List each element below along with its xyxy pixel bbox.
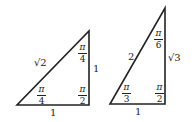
- pi-symbol: π: [80, 43, 86, 52]
- pi-symbol: π: [39, 85, 45, 94]
- t2-base-label: 1: [135, 107, 141, 117]
- denominator: 3: [124, 95, 130, 104]
- t1-angle-bottom-left: π 4: [37, 85, 46, 106]
- t2-angle-top: π 6: [154, 29, 163, 50]
- t1-base-label: 1: [50, 108, 56, 118]
- denominator: 4: [80, 55, 86, 64]
- t2-angle-bottom-left: π 3: [122, 83, 131, 104]
- t2-hypotenuse-label: 2: [128, 52, 134, 62]
- pi-symbol: π: [80, 85, 86, 94]
- pi-symbol: π: [156, 29, 162, 38]
- triangles-drawing: [0, 0, 194, 122]
- t1-angle-top: π 4: [78, 43, 87, 64]
- t2-vertical-label: √3: [168, 53, 181, 63]
- t1-vertical-label: 1: [93, 64, 99, 74]
- t1-hypotenuse-label: √2: [34, 58, 47, 68]
- pi-symbol: π: [157, 83, 163, 92]
- t1-angle-right: π 2: [78, 85, 87, 106]
- denominator: 2: [80, 97, 86, 106]
- t2-angle-right: π 2: [155, 83, 164, 104]
- denominator: 2: [157, 95, 163, 104]
- denominator: 6: [156, 41, 162, 50]
- denominator: 4: [39, 97, 45, 106]
- pi-symbol: π: [124, 83, 130, 92]
